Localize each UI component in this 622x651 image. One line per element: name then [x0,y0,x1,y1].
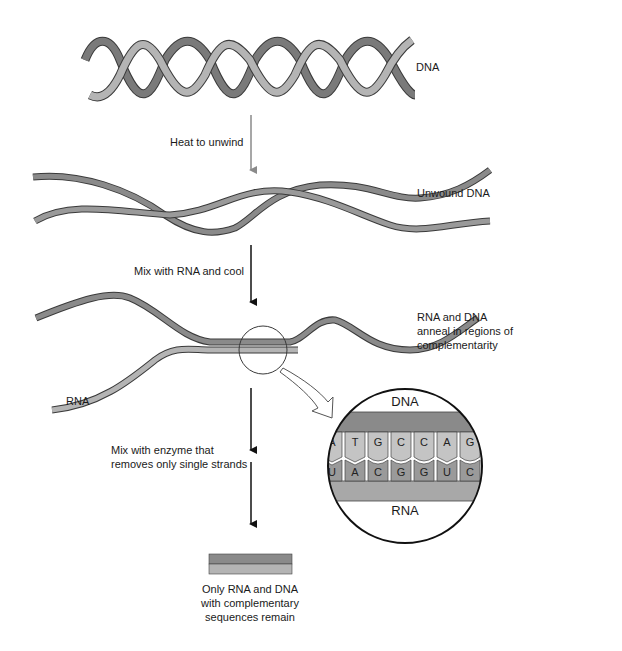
rna-base-letter: A [351,466,359,478]
label-result: Only RNA and DNA with complementary sequ… [190,582,310,624]
dna-base-letter: T [352,436,359,448]
rna-base-letter: C [374,466,382,478]
rna-base-letter: U [443,466,451,478]
dna-base-letter: C [397,436,405,448]
dna-base-letter: G [466,436,475,448]
label-rna-strand: RNA [66,394,89,408]
dna-base-letter: C [420,436,428,448]
label-unwound-dna: Unwound DNA [417,186,490,200]
rna-base-letter: G [397,466,406,478]
dna-base-letter: G [374,436,383,448]
base-pairing-inset: AUTAGCCGCGAUGC [320,388,490,548]
rna-base-letter: G [420,466,429,478]
rna-base-letter: C [466,466,474,478]
dna-base-letter: A [443,436,451,448]
label-heat-to-unwind: Heat to unwind [170,135,243,149]
unwound-dna-strands-icon [33,170,490,232]
inset-label-dna: DNA [375,395,435,409]
label-enzyme-step: Mix with enzyme that removes only single… [111,443,291,471]
inset-label-rna: RNA [375,504,435,518]
label-mix-rna-cool: Mix with RNA and cool [134,264,244,278]
magnify-arrow-icon [280,368,333,418]
label-dna: DNA [416,60,439,74]
label-anneal: RNA and DNA anneal in regions of complem… [417,310,557,352]
result-hybrid-duplex-icon [209,554,292,574]
dna-double-helix-icon [85,40,415,97]
